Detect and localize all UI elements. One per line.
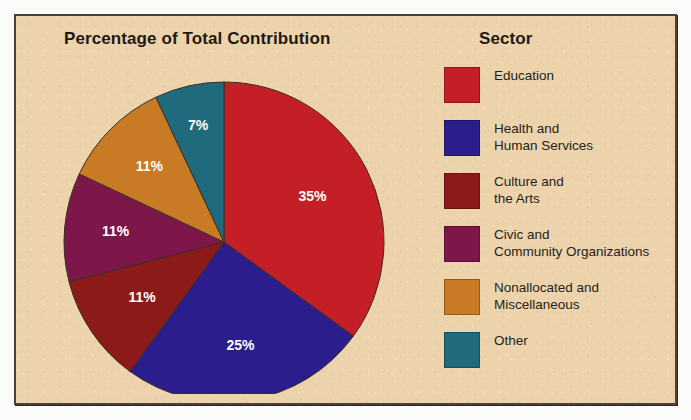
legend-color-swatch (444, 279, 480, 315)
legend-item[interactable]: Civic and Community Organizations (444, 225, 674, 269)
legend-item-label: Civic and Community Organizations (494, 225, 649, 260)
pie-slice-label: 11% (136, 158, 164, 174)
pie-slice-label: 11% (128, 289, 156, 305)
legend-item[interactable]: Culture and the Arts (444, 172, 674, 216)
legend-item[interactable]: Other (444, 331, 674, 375)
legend-item-label: Culture and the Arts (494, 172, 564, 207)
figure-panel: Percentage of Total Contribution Sector … (14, 14, 677, 405)
pie-slice-label: 35% (298, 188, 327, 204)
pie-slice-label: 11% (102, 223, 130, 239)
legend-item[interactable]: Health and Human Services (444, 119, 674, 163)
legend-item-label: Education (494, 66, 554, 84)
legend: EducationHealth and Human ServicesCultur… (444, 66, 674, 384)
pie-slice-label: 7% (188, 117, 209, 133)
legend-item-label: Nonallocated and Miscellaneous (494, 278, 599, 313)
legend-title: Sector (479, 29, 533, 49)
legend-item[interactable]: Education (444, 66, 674, 110)
legend-color-swatch (444, 120, 480, 156)
legend-item-label: Other (494, 331, 528, 349)
pie-slice-label: 25% (226, 337, 255, 353)
page-title: Percentage of Total Contribution (64, 29, 330, 49)
legend-color-swatch (444, 226, 480, 262)
legend-color-swatch (444, 173, 480, 209)
page-canvas: Percentage of Total Contribution Sector … (0, 0, 691, 420)
legend-color-swatch (444, 332, 480, 368)
pie-chart-svg: 35%25%11%11%11%7% (49, 64, 389, 394)
legend-item-label: Health and Human Services (494, 119, 593, 154)
legend-color-swatch (444, 67, 480, 103)
legend-item[interactable]: Nonallocated and Miscellaneous (444, 278, 674, 322)
pie-chart: 35%25%11%11%11%7% (49, 64, 389, 394)
